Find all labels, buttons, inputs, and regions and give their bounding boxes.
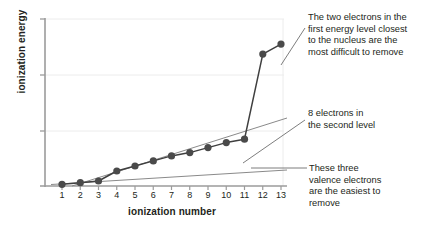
data-point bbox=[223, 139, 230, 146]
data-point bbox=[77, 179, 84, 186]
x-tick-label: 7 bbox=[162, 190, 182, 200]
data-point bbox=[58, 181, 65, 188]
annotation-second-level: 8 electrons in the second level bbox=[308, 108, 424, 131]
data-point bbox=[241, 136, 248, 143]
x-tick-label: 8 bbox=[180, 190, 200, 200]
x-tick-label: 12 bbox=[253, 190, 273, 200]
x-tick-label: 4 bbox=[107, 190, 127, 200]
annotation-first-energy-level: The two electrons in the first energy le… bbox=[308, 12, 424, 58]
data-point bbox=[95, 177, 102, 184]
x-tick-label: 9 bbox=[198, 190, 218, 200]
data-point bbox=[168, 152, 175, 159]
data-point bbox=[277, 41, 284, 48]
data-point bbox=[186, 149, 193, 156]
chart-figure: ionization energy ionization number 1234… bbox=[0, 0, 427, 234]
annotation-valence-electrons: These three valence electrons are the ea… bbox=[309, 163, 421, 209]
x-tick-label: 3 bbox=[89, 190, 109, 200]
x-tick-label: 10 bbox=[216, 190, 236, 200]
data-point bbox=[113, 167, 120, 174]
x-tick-label: 11 bbox=[235, 190, 255, 200]
data-point bbox=[150, 157, 157, 164]
x-tick-label: 6 bbox=[143, 190, 163, 200]
x-tick-label: 2 bbox=[70, 190, 90, 200]
x-tick-label: 13 bbox=[271, 190, 291, 200]
x-tick-label: 5 bbox=[125, 190, 145, 200]
data-point bbox=[131, 162, 138, 169]
x-tick-label: 1 bbox=[52, 190, 72, 200]
data-point bbox=[259, 51, 266, 58]
data-point bbox=[204, 144, 211, 151]
x-axis-label: ionization number bbox=[62, 206, 282, 217]
y-axis-label: ionization energy bbox=[16, 0, 27, 117]
